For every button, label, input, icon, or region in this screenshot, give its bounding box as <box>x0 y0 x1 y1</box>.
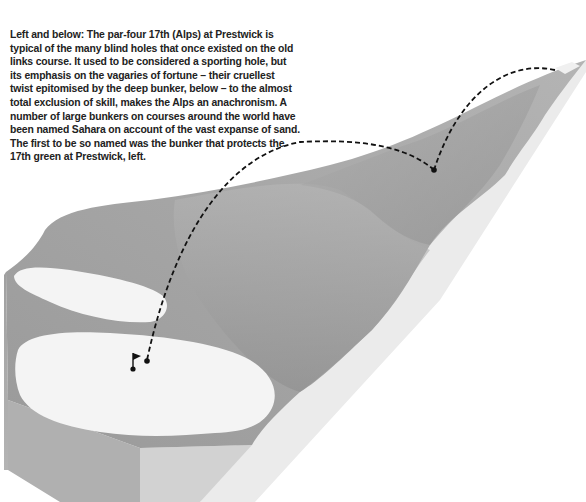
landing-point-icon <box>431 167 437 173</box>
caption-text: Left and below: The par-four 17th (Alps)… <box>10 28 300 164</box>
ball-icon <box>144 358 150 364</box>
